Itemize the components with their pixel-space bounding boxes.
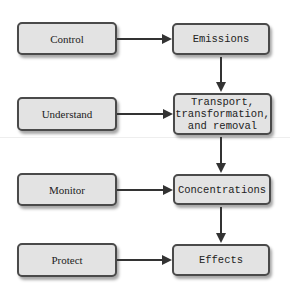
arrowhead-down-icon: [216, 233, 226, 243]
node-concentrations: Concentrations: [173, 174, 271, 205]
arrow-shaft: [117, 189, 164, 191]
node-control: Control: [17, 22, 117, 55]
arrow-shaft: [220, 57, 222, 83]
arrowhead-right-icon: [162, 34, 172, 44]
node-label: Protect: [51, 254, 82, 266]
node-transport-transformation-removal: Transport, transformation, and removal: [173, 93, 272, 135]
node-understand: Understand: [17, 97, 117, 131]
node-label: Monitor: [49, 184, 85, 196]
node-label: Emissions: [193, 33, 250, 45]
arrow-shaft: [220, 137, 222, 164]
node-effects: Effects: [172, 244, 270, 276]
node-monitor: Monitor: [17, 173, 117, 206]
arrowhead-right-icon: [163, 185, 173, 195]
node-label: Transport, transformation, and removal: [175, 96, 270, 132]
scan-artifact-line: [0, 137, 290, 138]
node-protect: Protect: [17, 243, 117, 277]
arrow-shaft: [117, 259, 163, 261]
arrowhead-right-icon: [163, 109, 173, 119]
arrowhead-down-icon: [216, 163, 226, 173]
arrowhead-down-icon: [216, 82, 226, 92]
arrowhead-right-icon: [162, 255, 172, 265]
node-label: Understand: [42, 108, 93, 120]
arrow-shaft: [117, 113, 164, 115]
node-emissions: Emissions: [172, 23, 270, 55]
node-label: Effects: [199, 254, 243, 266]
arrow-shaft: [220, 207, 222, 234]
node-label: Concentrations: [178, 184, 266, 196]
arrow-shaft: [117, 38, 163, 40]
node-label: Control: [50, 33, 84, 45]
